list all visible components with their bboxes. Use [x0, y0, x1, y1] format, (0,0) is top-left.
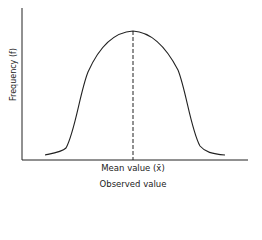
x-tick-mean: Mean value (x̄)	[88, 163, 178, 173]
x-axis-label: Observed value	[83, 179, 183, 189]
bell-curve	[45, 31, 225, 155]
y-axis-label: Frequency (f)	[9, 40, 18, 110]
